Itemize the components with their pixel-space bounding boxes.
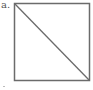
diagonal-line	[15, 4, 90, 81]
stray-mark	[3, 86, 5, 87]
square-diagram	[0, 0, 93, 90]
